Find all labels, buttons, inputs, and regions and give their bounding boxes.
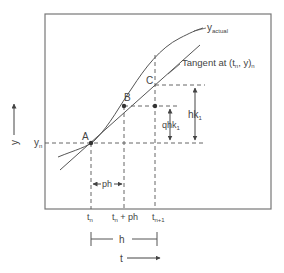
tick-tn: tn — [87, 212, 93, 223]
tick-tn-ph: tn + ph — [112, 212, 138, 223]
ph-label: ph — [102, 179, 112, 189]
tangent-line — [60, 45, 200, 170]
actual-label-leader — [194, 28, 206, 31]
yn-label: yn — [34, 137, 42, 149]
hk1-label: hk1 — [188, 109, 203, 121]
tangent-label-leader — [168, 64, 180, 74]
h-label: h — [119, 234, 125, 245]
y-axis-label: y — [9, 140, 20, 145]
point-c-projection — [153, 104, 157, 108]
guide-lines — [45, 55, 205, 209]
point-a — [89, 141, 93, 145]
plot-frame — [45, 14, 271, 209]
t-axis-label: t — [120, 253, 123, 264]
label-a: A — [82, 131, 89, 142]
label-b: B — [124, 92, 131, 103]
label-c: C — [146, 75, 153, 86]
rk-diagram: A B C qhk1 hk1 ph y yn yactual Tangent a… — [0, 0, 284, 273]
y-actual-label: yactual — [207, 22, 228, 34]
tick-tn1: tn+1 — [152, 212, 165, 223]
tangent-label: Tangent at (tn, y)n — [182, 57, 255, 69]
qhk1-label: qhk1 — [162, 120, 181, 131]
point-b — [122, 104, 126, 108]
